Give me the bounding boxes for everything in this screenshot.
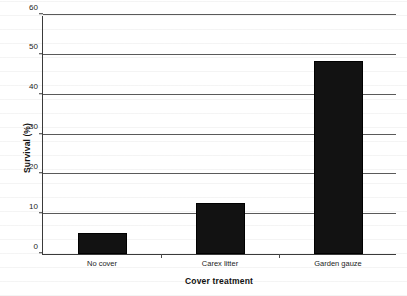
x-axis-title: Cover treatment	[42, 276, 396, 286]
y-tick-label: 40	[29, 83, 38, 91]
x-tick-mark	[161, 254, 162, 258]
y-tick-mark	[39, 252, 43, 253]
y-tick-mark	[39, 13, 43, 14]
x-tick-label: Garden gauze	[314, 260, 362, 268]
gridline	[43, 14, 396, 15]
y-tick-mark	[39, 93, 43, 94]
y-tick-label: 60	[29, 4, 38, 12]
y-tick-label: 10	[29, 203, 38, 211]
y-tick-mark	[39, 173, 43, 174]
bar-chart-figure: Survival (%) 0102030405060 No coverCarex…	[0, 0, 407, 296]
x-tick-label: No cover	[87, 260, 117, 268]
y-tick-mark	[39, 212, 43, 213]
x-tick-label: Carex litter	[202, 260, 238, 268]
x-tick-mark	[279, 254, 280, 258]
y-tick-mark	[39, 53, 43, 54]
y-tick-label: 50	[29, 43, 38, 51]
bar	[78, 233, 127, 254]
plot-area: 0102030405060 No coverCarex litterGarden…	[42, 16, 396, 255]
bar	[314, 61, 363, 254]
y-tick-mark	[39, 133, 43, 134]
bar	[196, 203, 245, 254]
y-tick-label: 0	[34, 243, 38, 251]
y-tick-label: 30	[29, 123, 38, 131]
y-tick-label: 20	[29, 163, 38, 171]
gridline	[43, 54, 396, 55]
